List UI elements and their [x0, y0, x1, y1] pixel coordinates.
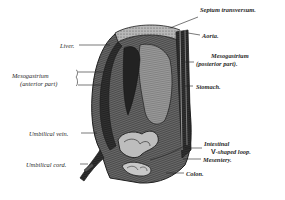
label-stomach: Stomach.: [196, 83, 221, 90]
label-umbilical-cord: Umbilical cord.: [26, 161, 66, 168]
label-umbilical-vein: Umbilical vein.: [29, 130, 68, 137]
label-colon: Colon.: [186, 170, 204, 177]
label-v-shaped-loop: V-shaped loop.: [211, 148, 251, 155]
label-mesogastrium-anterior-2: (anterior part): [20, 80, 57, 87]
label-mesogastrium-anterior-1: Mesogastrium: [12, 72, 49, 79]
label-septum-transversum: Septum transversum.: [200, 6, 256, 13]
label-liver: Liver.: [60, 42, 74, 49]
label-aorta: Aorta.: [202, 32, 219, 39]
label-mesentery: Mesentery.: [203, 156, 232, 163]
embryo-illustration: [0, 0, 285, 200]
label-mesogastrium-posterior-1: Mesogastrium: [211, 52, 249, 59]
label-mesogastrium-posterior-2: (posterior part).: [196, 60, 238, 67]
label-intestinal: Intestinal: [204, 140, 229, 147]
anatomical-figure: Septum transversum. Aorta. Liver. Mesoga…: [0, 0, 285, 200]
